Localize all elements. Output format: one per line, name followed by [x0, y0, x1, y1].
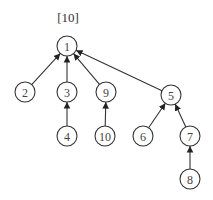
tree-label: [10] — [57, 10, 79, 25]
node-7: 7 — [180, 126, 200, 146]
edge-7-to-5 — [175, 104, 186, 127]
node-label: 4 — [64, 130, 70, 144]
node-label: 10 — [99, 130, 111, 144]
node-9: 9 — [96, 82, 116, 102]
node-2: 2 — [15, 82, 35, 102]
node-label: 2 — [22, 86, 28, 100]
edge-10-to-9 — [105, 102, 106, 126]
edges-group — [32, 50, 190, 169]
node-5: 5 — [161, 85, 181, 105]
node-3: 3 — [57, 82, 77, 102]
node-label: 8 — [187, 173, 193, 187]
edge-5-to-1 — [76, 50, 162, 90]
node-label: 1 — [64, 40, 70, 54]
nodes-group: 12395410678 — [15, 36, 200, 189]
node-8: 8 — [180, 169, 200, 189]
node-label: 6 — [140, 130, 146, 144]
node-6: 6 — [133, 126, 153, 146]
node-10: 10 — [95, 126, 115, 146]
node-label: 5 — [168, 89, 174, 103]
tree-diagram: [10] 12395410678 — [0, 0, 213, 200]
edge-2-to-1 — [32, 53, 61, 84]
node-label: 3 — [64, 86, 70, 100]
edge-6-to-5 — [149, 103, 166, 127]
node-1: 1 — [57, 36, 77, 56]
node-label: 9 — [103, 86, 109, 100]
node-label: 7 — [187, 130, 193, 144]
edge-9-to-1 — [74, 54, 100, 85]
node-4: 4 — [57, 126, 77, 146]
